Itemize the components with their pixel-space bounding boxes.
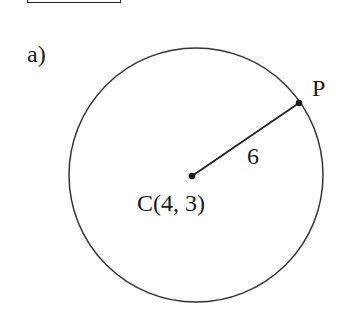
point-p-label: P bbox=[312, 75, 325, 101]
point-p bbox=[296, 100, 303, 107]
center-point bbox=[189, 173, 196, 180]
radius-segment bbox=[192, 103, 299, 176]
radius-label: 6 bbox=[247, 143, 259, 169]
center-label: C(4, 3) bbox=[137, 190, 205, 216]
circle-diagram: P 6 C(4, 3) bbox=[0, 0, 361, 311]
circle bbox=[69, 48, 323, 302]
